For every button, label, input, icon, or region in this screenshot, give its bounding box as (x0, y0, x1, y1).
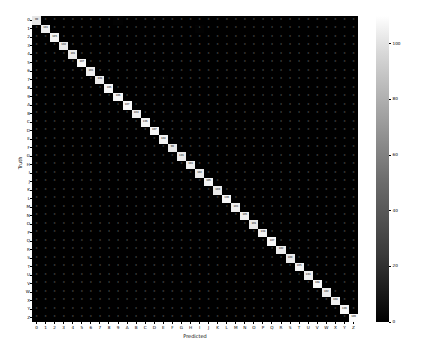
matrix-cell-value: 0 (262, 282, 264, 285)
matrix-cell-value: 0 (72, 121, 74, 124)
matrix-cell: 0 (213, 16, 222, 25)
matrix-cell: 0 (68, 135, 77, 144)
matrix-cell-value: 0 (36, 214, 38, 217)
matrix-cell: 0 (267, 110, 276, 119)
matrix-cell: 0 (95, 212, 104, 221)
matrix-cell-value: 0 (126, 274, 128, 277)
matrix-cell-value: 0 (36, 163, 38, 166)
matrix-cell-value: 0 (353, 274, 355, 277)
matrix-cell-value: 0 (335, 206, 337, 209)
matrix-cell-value: 0 (280, 172, 282, 175)
matrix-cell: 0 (304, 229, 313, 238)
matrix-cell-value: 0 (307, 78, 309, 81)
matrix-cell: 0 (222, 135, 231, 144)
matrix-cell: 0 (222, 203, 231, 212)
matrix-cell: 0 (123, 118, 132, 127)
matrix-cell-value: 0 (163, 223, 165, 226)
matrix-cell-value: 0 (298, 214, 300, 217)
matrix-cell-value: 0 (45, 104, 47, 107)
matrix-cell-value: 0 (90, 138, 92, 141)
matrix-cell-value: 0 (99, 155, 101, 158)
matrix-cell-value: 0 (298, 19, 300, 22)
matrix-cell-value: 0 (353, 172, 355, 175)
matrix-cell: 0 (150, 135, 159, 144)
matrix-cell: 0 (141, 288, 150, 297)
matrix-cell: 0 (295, 178, 304, 187)
matrix-cell: 0 (240, 59, 249, 68)
matrix-cell: 0 (195, 220, 204, 229)
matrix-cell: 104 (331, 297, 340, 306)
matrix-cell: 0 (86, 263, 95, 272)
matrix-cell: 0 (249, 305, 258, 314)
matrix-cell: 0 (295, 50, 304, 59)
matrix-cell: 0 (41, 195, 50, 204)
matrix-cell: 0 (59, 246, 68, 255)
matrix-cell-value: 0 (144, 265, 146, 268)
matrix-cell: 0 (267, 33, 276, 42)
matrix-cell: 0 (141, 195, 150, 204)
matrix-cell-value: 103 (233, 206, 238, 209)
matrix-cell-value: 0 (235, 299, 237, 302)
matrix-cell: 0 (304, 101, 313, 110)
matrix-cell-value: 0 (153, 19, 155, 22)
matrix-cell: 0 (159, 84, 168, 93)
matrix-cell: 0 (123, 203, 132, 212)
matrix-cell-value: 0 (235, 44, 237, 47)
matrix-cell: 0 (104, 220, 113, 229)
matrix-cell: 0 (231, 161, 240, 170)
matrix-cell: 0 (186, 84, 195, 93)
matrix-cell-value: 0 (45, 146, 47, 149)
matrix-cell: 0 (141, 178, 150, 187)
matrix-cell: 0 (240, 195, 249, 204)
matrix-cell-value: 0 (153, 95, 155, 98)
matrix-cell: 0 (50, 161, 59, 170)
matrix-cell: 0 (213, 101, 222, 110)
matrix-cell-value: 0 (262, 95, 264, 98)
matrix-cell: 0 (304, 25, 313, 34)
matrix-cell: 0 (177, 135, 186, 144)
matrix-cell: 0 (95, 144, 104, 153)
matrix-cell: 0 (286, 212, 295, 221)
matrix-cell: 0 (141, 110, 150, 119)
matrix-cell-value: 0 (117, 257, 119, 260)
matrix-cell-value: 0 (172, 129, 174, 132)
matrix-cell: 0 (186, 33, 195, 42)
matrix-cell-value: 0 (316, 61, 318, 64)
matrix-cell: 0 (213, 144, 222, 153)
matrix-cell-value: 0 (36, 308, 38, 311)
matrix-cell-value: 0 (307, 248, 309, 251)
matrix-cell: 0 (213, 263, 222, 272)
matrix-cell: 0 (32, 229, 41, 238)
matrix-cell: 0 (286, 33, 295, 42)
matrix-cell-value: 0 (244, 180, 246, 183)
matrix-cell-value: 0 (144, 44, 146, 47)
matrix-cell-value: 0 (190, 112, 192, 115)
matrix-cell-value: 0 (99, 180, 101, 183)
matrix-cell-value: 0 (153, 112, 155, 115)
matrix-cell: 0 (141, 203, 150, 212)
matrix-cell-value: 0 (81, 172, 83, 175)
matrix-cell-value: 0 (172, 189, 174, 192)
matrix-cell: 0 (68, 203, 77, 212)
matrix-cell-value: 0 (262, 70, 264, 73)
matrix-cell-value: 0 (63, 180, 65, 183)
matrix-cell-value: 0 (199, 240, 201, 243)
matrix-cell-value: 0 (81, 265, 83, 268)
x-tick-label: 0 (32, 323, 41, 332)
matrix-cell: 0 (340, 135, 349, 144)
matrix-cell: 0 (304, 195, 313, 204)
matrix-cell-value: 0 (235, 27, 237, 30)
matrix-cell-value: 0 (289, 282, 291, 285)
matrix-cell-value: 0 (208, 36, 210, 39)
matrix-cell: 0 (123, 280, 132, 289)
matrix-cell-value: 0 (99, 240, 101, 243)
y-tick-label: N (22, 212, 31, 221)
matrix-cell-value: 0 (280, 206, 282, 209)
matrix-cell-value: 0 (271, 206, 273, 209)
matrix-cell: 0 (349, 135, 358, 144)
matrix-cell-value: 0 (99, 70, 101, 73)
matrix-cell-value: 0 (298, 274, 300, 277)
matrix-cell: 0 (313, 288, 322, 297)
matrix-cell-value: 0 (190, 299, 192, 302)
matrix-cell: 0 (132, 67, 141, 76)
